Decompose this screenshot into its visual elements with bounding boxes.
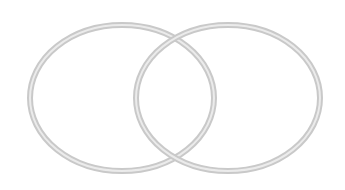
- ellipse-right: [136, 25, 320, 171]
- ellipse-left: [30, 25, 214, 171]
- venn-diagram: [0, 0, 345, 190]
- venn-canvas: [0, 0, 345, 190]
